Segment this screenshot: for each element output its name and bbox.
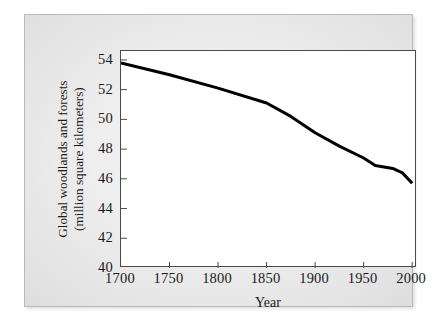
y-tick-label: 44: [98, 200, 113, 215]
y-tick-label: 52: [98, 81, 113, 96]
x-tick-label: 1800: [202, 271, 232, 286]
y-tick-label: 54: [98, 52, 113, 67]
x-tick-label: 1950: [348, 271, 378, 286]
x-tick-label: 1850: [251, 271, 281, 286]
figure-root: Global woodlands and forests (million sq…: [0, 0, 434, 322]
x-tick-label: 1900: [299, 271, 329, 286]
figure-panel: Global woodlands and forests (million sq…: [24, 14, 413, 307]
tick-marks-group: [121, 60, 412, 268]
y-axis-tick-labels: 4042444648505254: [77, 50, 113, 267]
y-tick-label: 46: [98, 171, 113, 186]
y-tick-label: 50: [98, 111, 113, 126]
y-axis-title-line-1: Global woodlands and forests: [55, 56, 71, 262]
data-series-line: [121, 63, 412, 183]
x-tick-label: 1700: [105, 271, 135, 286]
x-axis-title: Year: [120, 296, 416, 310]
x-tick-label: 2000: [396, 271, 426, 286]
y-tick-label: 42: [98, 230, 113, 245]
x-axis-tick-labels: 1700175018001850190019502000: [120, 271, 416, 293]
x-tick-label: 1750: [154, 271, 184, 286]
plot-area: [120, 50, 416, 267]
y-tick-label: 48: [98, 141, 113, 156]
line-chart-svg: [121, 51, 417, 268]
